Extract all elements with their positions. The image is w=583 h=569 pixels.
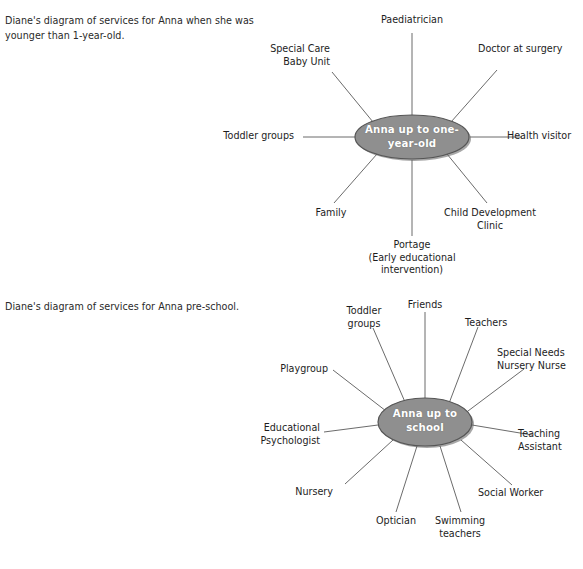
diagram-anna-up-to-one-year-old: Diane's diagram of services for Anna whe… [0, 0, 583, 285]
node-educational-psychologist: Educational Psychologist [212, 422, 320, 447]
node-toddler-groups: Toddler groups [208, 130, 294, 143]
spoke-line-family [334, 154, 377, 203]
spoke-line-nursery [345, 440, 393, 484]
diagram-anna-up-to-school: Diane's diagram of services for Anna pre… [0, 285, 583, 569]
spoke-line-doctor-at-surgery [451, 70, 497, 122]
node-special-care-baby-unit: Special Care Baby Unit [248, 43, 330, 68]
node-playgroup: Playgroup [240, 363, 328, 376]
node-portage: Portage (Early educational intervention) [352, 239, 472, 277]
node-child-development-clinic: Child Development Clinic [433, 207, 547, 232]
node-doctor-at-surgery: Doctor at surgery [478, 43, 583, 56]
hub-ellipse-2 [378, 398, 472, 446]
spoke-line-toddler-groups-2 [373, 328, 405, 402]
hub-ellipse-1 [355, 115, 469, 159]
node-family: Family [296, 207, 366, 220]
spoke-line-special-care-baby-unit [332, 72, 373, 122]
spoke-line-educational-psychologist [324, 425, 378, 432]
spoke-line-swimming-teachers [440, 446, 461, 512]
node-toddler-groups-2: Toddler groups [330, 305, 398, 330]
node-teachers: Teachers [465, 317, 545, 330]
spoke-line-teachers [448, 327, 478, 406]
spoke-line-special-needs-nursery-nurse [464, 369, 524, 414]
node-nursery: Nursery [255, 486, 333, 499]
spoke-line-playgroup [333, 370, 386, 411]
node-paediatrician: Paediatrician [362, 14, 462, 27]
document-page: Diane's diagram of services for Anna whe… [0, 0, 583, 569]
node-teaching-assistant: Teaching Assistant [518, 428, 583, 453]
node-special-needs-nursery-nurse: Special Needs Nursery Nurse [497, 347, 583, 372]
spoke-line-social-worker [461, 440, 512, 485]
spoke-line-optician [396, 446, 417, 512]
node-health-visitor: Health visitor [507, 130, 583, 143]
node-optician: Optician [357, 515, 435, 528]
spoke-line-child-dev-clinic [447, 154, 487, 203]
node-social-worker: Social Worker [478, 487, 573, 500]
